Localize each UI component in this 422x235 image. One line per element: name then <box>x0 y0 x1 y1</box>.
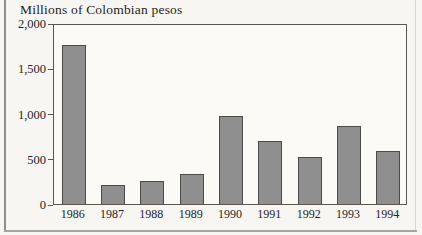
x-tick-label-1994: 1994 <box>375 207 399 222</box>
y-tick-label-2000: 2,000 <box>0 16 46 32</box>
x-tick-label-1986: 1986 <box>61 207 85 222</box>
bar-1989 <box>180 174 204 204</box>
bars-container <box>54 25 406 204</box>
y-tick-mark-2000 <box>48 24 53 25</box>
y-tick-mark-500 <box>48 159 53 160</box>
bar-1988 <box>140 181 164 205</box>
y-tick-label-1500: 1,500 <box>0 61 46 77</box>
bar-1991 <box>258 141 282 204</box>
x-tick-label-1991: 1991 <box>257 207 281 222</box>
bar-1993 <box>337 126 361 204</box>
y-tick-label-0: 0 <box>0 197 46 213</box>
y-tick-mark-1000 <box>48 114 53 115</box>
y-tick-mark-1500 <box>48 69 53 70</box>
x-tick-label-1992: 1992 <box>297 207 321 222</box>
figure-frame-bottom <box>4 230 417 232</box>
x-tick-label-1987: 1987 <box>100 207 124 222</box>
figure-frame-right <box>415 0 416 230</box>
x-tick-label-1990: 1990 <box>218 207 242 222</box>
plot-area <box>53 24 407 205</box>
y-tick-label-1000: 1,000 <box>0 107 46 123</box>
bar-1990 <box>219 116 243 204</box>
bar-1992 <box>298 157 322 204</box>
x-tick-label-1993: 1993 <box>336 207 360 222</box>
bar-1986 <box>62 45 86 204</box>
figure-panel: Millions of Colombian pesos 05001,0001,5… <box>0 0 422 235</box>
bar-1987 <box>101 185 125 204</box>
bar-1994 <box>376 151 400 204</box>
x-tick-label-1988: 1988 <box>139 207 163 222</box>
y-tick-label-500: 500 <box>0 152 46 168</box>
x-tick-label-1989: 1989 <box>179 207 203 222</box>
y-tick-mark-0 <box>48 205 53 206</box>
